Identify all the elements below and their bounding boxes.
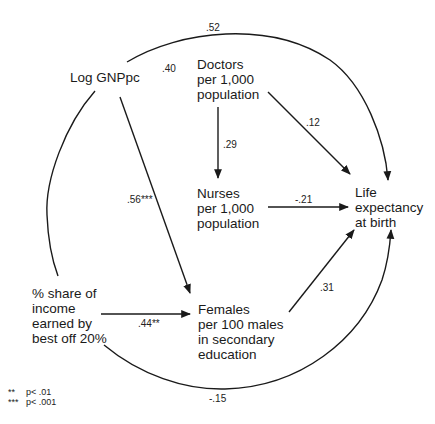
node-life-line: at birth xyxy=(355,215,423,230)
coef-income-to-females: .44** xyxy=(138,318,160,329)
node-females-line: in secondary xyxy=(198,332,284,347)
node-females-line: per 100 males xyxy=(198,317,284,332)
node-females-line: Females xyxy=(198,302,284,317)
node-doctors: Doctors per 1,000 population xyxy=(197,57,259,102)
node-doctors-line: per 1,000 xyxy=(197,72,259,87)
node-income-line: % share of xyxy=(32,286,107,301)
node-nurses-line: per 1,000 xyxy=(197,201,259,216)
legend-symbol: ** xyxy=(8,387,26,397)
node-life-line: expectancy xyxy=(355,200,423,215)
node-nurses-line: population xyxy=(197,216,259,231)
edge-doctors-to-life xyxy=(268,92,350,174)
node-life-expectancy: Life expectancy at birth xyxy=(355,185,423,230)
edge-females-to-life xyxy=(289,230,354,312)
legend-row: ** p< .01 xyxy=(8,387,56,397)
coef-income-to-life-label: -.15 xyxy=(209,393,226,404)
coef-females-to-life: .31 xyxy=(320,282,334,293)
legend-meaning: p< .01 xyxy=(26,387,51,397)
node-income-line: earned by xyxy=(32,316,107,331)
edge-log-gnp-income-correlation xyxy=(47,91,95,276)
node-life-line: Life xyxy=(355,185,423,200)
node-log-gnp: Log GNPpc xyxy=(70,70,140,85)
coef-nurses-to-life: -.21 xyxy=(295,194,312,205)
node-doctors-line: population xyxy=(197,87,259,102)
node-log-gnp-line: Log GNPpc xyxy=(70,70,140,85)
node-doctors-line: Doctors xyxy=(197,57,259,72)
node-income-line: income xyxy=(32,301,107,316)
coef-doctors-to-life: .12 xyxy=(306,117,320,128)
edge-log-gnp-to-life xyxy=(127,34,388,180)
node-nurses-line: Nurses xyxy=(197,186,259,201)
legend-symbol: *** xyxy=(8,397,26,407)
legend-row: *** p< .001 xyxy=(8,397,56,407)
coef-log-gnp-to-life: .52 xyxy=(206,22,220,33)
coef-log-gnp-doctors: .40 xyxy=(162,63,176,74)
legend-meaning: p< .001 xyxy=(26,397,56,407)
node-income-share: % share of income earned by best off 20% xyxy=(32,286,107,346)
node-nurses: Nurses per 1,000 population xyxy=(197,186,259,231)
node-income-line: best off 20% xyxy=(32,331,107,346)
coef-doctors-to-nurses: .29 xyxy=(223,139,237,150)
node-females: Females per 100 males in secondary educa… xyxy=(198,302,284,362)
node-females-line: education xyxy=(198,347,284,362)
significance-legend: ** p< .01 *** p< .001 xyxy=(8,387,56,407)
coef-log-gnp-to-females: .56*** xyxy=(127,194,153,205)
